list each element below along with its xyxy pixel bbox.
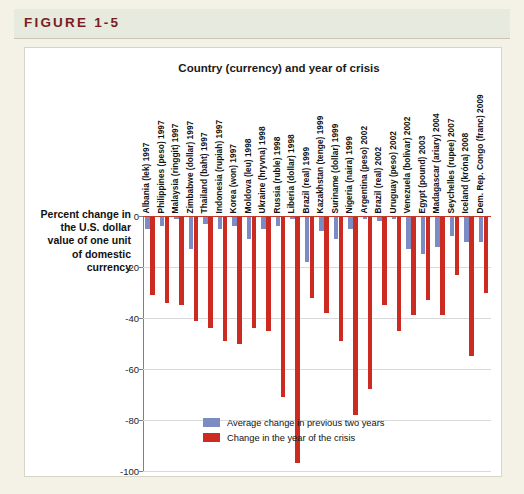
bar-change-in-crisis-year[interactable] <box>310 216 315 298</box>
bar-group[interactable]: Dem. Rep. Congo (franc) 2009 <box>479 216 494 471</box>
category-label: Suriname (dollar) 1999 <box>330 123 338 213</box>
category-label: Korea (won) 1997 <box>229 144 237 213</box>
bar-average-previous-two-years[interactable] <box>479 216 484 242</box>
bar-average-previous-two-years[interactable] <box>160 216 165 226</box>
bar-change-in-crisis-year[interactable] <box>237 216 242 344</box>
y-tick-label: -40 <box>125 313 139 324</box>
category-label: Iceland (króna) 2008 <box>461 132 469 213</box>
bar-change-in-crisis-year[interactable] <box>353 216 358 415</box>
category-label: Moldova (leu) 1998 <box>243 138 251 213</box>
bar-average-previous-two-years[interactable] <box>276 216 281 226</box>
y-tick-label: 0 <box>134 211 139 222</box>
gridline <box>143 471 491 472</box>
category-label: Argentina (peso) 2002 <box>359 126 367 214</box>
bar-change-in-crisis-year[interactable] <box>165 216 170 303</box>
bar-average-previous-two-years[interactable] <box>145 216 150 229</box>
category-label: Brazil (real) 2002 <box>374 146 382 213</box>
bar-change-in-crisis-year[interactable] <box>469 216 474 356</box>
bar-change-in-crisis-year[interactable] <box>411 216 416 315</box>
bar-change-in-crisis-year[interactable] <box>426 216 431 300</box>
category-label: Brazil (real) 1999 <box>301 146 309 213</box>
figure-root: FIGURE 1-5 Country (currency) and year o… <box>0 0 524 494</box>
bar-group[interactable]: Iceland (króna) 2008 <box>464 216 479 471</box>
bar-group[interactable]: Zimbabwe (dollar) 1997 <box>189 216 204 471</box>
y-tick-label: -100 <box>120 466 139 477</box>
y-tick-label: -60 <box>125 364 139 375</box>
legend-swatch-blue <box>203 418 220 427</box>
bar-group[interactable]: Egypt (pound) 2003 <box>421 216 436 471</box>
bar-group[interactable]: Philippines (peso) 1997 <box>160 216 175 471</box>
bar-change-in-crisis-year[interactable] <box>382 216 387 305</box>
category-label: Russia (ruble) 1998 <box>272 136 280 213</box>
category-label: Albania (lek) 1997 <box>142 142 150 213</box>
category-label: Ukraine (hryvna) 1998 <box>258 126 266 213</box>
category-label: Indonesia (rupiah) 1997 <box>214 119 222 213</box>
bar-group[interactable]: Malaysia (ringgit) 1997 <box>174 216 189 471</box>
bar-average-previous-two-years[interactable] <box>406 216 411 249</box>
bar-change-in-crisis-year[interactable] <box>266 216 271 331</box>
bar-change-in-crisis-year[interactable] <box>324 216 329 313</box>
category-label: Madagascar (ariary) 2004 <box>432 113 440 213</box>
bar-change-in-crisis-year[interactable] <box>179 216 184 305</box>
bar-average-previous-two-years[interactable] <box>189 216 194 249</box>
legend-item[interactable]: Average change in previous two years <box>203 415 384 430</box>
bar-average-previous-two-years[interactable] <box>319 216 324 231</box>
bar-group[interactable]: Uruguay (peso) 2002 <box>392 216 407 471</box>
y-axis-title: Percent change in the U.S. dollar value … <box>39 208 131 274</box>
category-label: Venezuela (bolivar) 2002 <box>403 116 411 213</box>
bar-change-in-crisis-year[interactable] <box>368 216 373 389</box>
category-label: Liberia (dollar) 1998 <box>287 134 295 213</box>
bar-change-in-crisis-year[interactable] <box>208 216 213 328</box>
y-tick-mark <box>139 369 143 370</box>
bar-average-previous-two-years[interactable] <box>203 216 208 224</box>
category-label: Seychelles (rupee) 2007 <box>446 118 454 213</box>
bar-group[interactable]: Seychelles (rupee) 2007 <box>450 216 465 471</box>
legend-item[interactable]: Change in the year of the crisis <box>203 430 384 445</box>
y-tick-mark <box>139 318 143 319</box>
legend-item-label: Average change in previous two years <box>227 418 384 428</box>
y-tick-mark <box>139 267 143 268</box>
y-tick-mark <box>139 420 143 421</box>
chart-title: Country (currency) and year of crisis <box>25 62 503 74</box>
category-label: Philippines (peso) 1997 <box>156 120 164 213</box>
bar-average-previous-two-years[interactable] <box>218 216 223 229</box>
category-label: Egypt (pound) 2003 <box>417 135 425 213</box>
bar-change-in-crisis-year[interactable] <box>223 216 228 341</box>
bar-group[interactable]: Albania (lek) 1997 <box>145 216 160 471</box>
legend-item-label: Change in the year of the crisis <box>227 433 355 443</box>
bar-change-in-crisis-year[interactable] <box>440 216 445 315</box>
category-label: Malaysia (ringgit) 1997 <box>171 123 179 213</box>
figure-number-label: FIGURE 1-5 <box>24 15 120 30</box>
y-tick-label: -20 <box>125 262 139 273</box>
bar-change-in-crisis-year[interactable] <box>397 216 402 331</box>
bar-change-in-crisis-year[interactable] <box>150 216 155 295</box>
chart-legend: Average change in previous two yearsChan… <box>203 415 384 445</box>
bar-average-previous-two-years[interactable] <box>450 216 455 236</box>
y-tick-mark <box>139 471 143 472</box>
category-label: Kazakhstan (tenge) 1999 <box>316 115 324 213</box>
bar-average-previous-two-years[interactable] <box>247 216 252 239</box>
bar-change-in-crisis-year[interactable] <box>281 216 286 397</box>
bar-group[interactable]: Madagascar (ariary) 2004 <box>435 216 450 471</box>
category-label: Zimbabwe (dollar) 1997 <box>185 120 193 213</box>
bar-average-previous-two-years[interactable] <box>421 216 426 254</box>
y-axis-spine <box>143 216 144 471</box>
bar-average-previous-two-years[interactable] <box>348 216 353 229</box>
legend-swatch-red <box>203 433 220 442</box>
bar-change-in-crisis-year[interactable] <box>194 216 199 321</box>
bar-group[interactable]: Venezuela (bolivar) 2002 <box>406 216 421 471</box>
bar-change-in-crisis-year[interactable] <box>455 216 460 275</box>
bar-change-in-crisis-year[interactable] <box>252 216 257 328</box>
bar-change-in-crisis-year[interactable] <box>484 216 489 293</box>
bar-average-previous-two-years[interactable] <box>261 216 266 229</box>
bar-change-in-crisis-year[interactable] <box>339 216 344 341</box>
bar-average-previous-two-years[interactable] <box>334 216 339 239</box>
bar-average-previous-two-years[interactable] <box>305 216 310 262</box>
bar-average-previous-two-years[interactable] <box>464 216 469 242</box>
bar-average-previous-two-years[interactable] <box>435 216 440 247</box>
zero-baseline <box>143 216 491 217</box>
category-label: Thailand (baht) 1997 <box>200 132 208 213</box>
category-label: Dem. Rep. Congo (franc) 2009 <box>475 94 483 213</box>
category-label: Uruguay (peso) 2002 <box>388 131 396 213</box>
bar-average-previous-two-years[interactable] <box>232 216 237 226</box>
